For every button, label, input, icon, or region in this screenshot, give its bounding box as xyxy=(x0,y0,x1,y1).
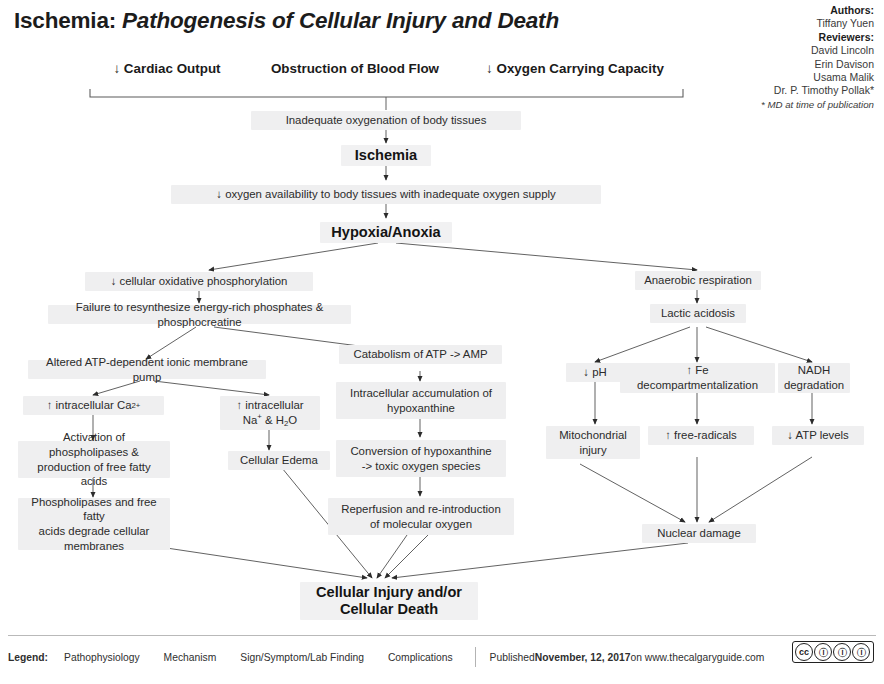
water-subscript: 2 xyxy=(284,419,288,428)
cellular-injury-line2: Cellular Death xyxy=(340,601,438,618)
node-oxidative-phosphorylation[interactable]: ↓ cellular oxidative phosphorylation xyxy=(85,272,313,291)
node-hypoxia-anoxia[interactable]: Hypoxia/Anoxia xyxy=(320,222,452,243)
publication-note: * MD at time of publication xyxy=(674,98,874,111)
cellular-injury-line1: Cellular Injury and/or xyxy=(316,584,462,601)
footer-bar: Legend: Pathophysiology Mechanism Sign/S… xyxy=(8,642,876,672)
hypoxanthine-accumulation-line1: Intracellular accumulation of xyxy=(350,386,492,401)
node-oxygen-carrying-capacity[interactable]: ↓ Oxygen Carrying Capacity xyxy=(466,58,684,80)
reperfusion-line1: Reperfusion and re-introduction xyxy=(341,502,501,517)
intracellular-sodium-line1: ↑ intracellular xyxy=(236,398,303,413)
node-oxygen-availability[interactable]: ↓ oxygen availability to body tissues wi… xyxy=(171,185,601,204)
fe-decomp-line2: decompartmentalization xyxy=(637,378,758,393)
node-ischemia[interactable]: Ischemia xyxy=(341,145,431,166)
title-subtitle-text: Pathogenesis of Cellular Injury and Deat… xyxy=(122,8,559,33)
reviewer-name: Dr. P. Timothy Pollak* xyxy=(674,84,874,97)
node-anaerobic-respiration[interactable]: Anaerobic respiration xyxy=(635,271,761,290)
legend-item-pathophysiology: Pathophysiology xyxy=(60,650,144,665)
reviewer-name: Usama Malik xyxy=(674,71,874,84)
author-name: Tiffany Yuen xyxy=(674,17,874,30)
cc-nc-icon: ⓘ xyxy=(833,643,851,661)
node-intracellular-sodium-water[interactable]: ↑ intracellular Na+ & H2O xyxy=(220,396,320,430)
legend: Legend: Pathophysiology Mechanism Sign/S… xyxy=(8,650,473,665)
publication-info: Published November, 12, 2017 on www.thec… xyxy=(490,652,765,663)
node-mitochondrial-injury[interactable]: Mitochondrial injury xyxy=(546,426,640,459)
nadh-line1: NADH xyxy=(798,363,830,378)
hypoxanthine-conversion-line2: -> toxic oxygen species xyxy=(362,459,481,474)
page-title: Ischemia: Pathogenesis of Cellular Injur… xyxy=(14,8,654,42)
reviewer-name: David Lincoln xyxy=(674,44,874,57)
published-date: November, 12, 2017 xyxy=(535,652,631,663)
node-failure-resynthesize[interactable]: Failure to resynthesize energy-rich phos… xyxy=(48,305,351,324)
nadh-line2: degradation xyxy=(784,378,844,393)
node-nadh-degradation[interactable]: NADH degradation xyxy=(778,363,850,393)
footer-divider xyxy=(8,635,876,636)
node-cellular-edema[interactable]: Cellular Edema xyxy=(228,451,330,470)
published-prefix: Published xyxy=(490,652,535,663)
phospholipase-activation-line1: Activation of phospholipases & xyxy=(24,430,164,459)
creative-commons-license[interactable]: cc ⓘ ⓘ ⓘ xyxy=(792,641,874,663)
mitochondrial-injury-line2: injury xyxy=(579,443,606,458)
cc-logo-icon: cc xyxy=(795,643,813,661)
node-intracellular-calcium[interactable]: ↑ intracellular Ca2+ xyxy=(23,396,164,415)
title-main-text: Ischemia: xyxy=(14,8,122,33)
node-lactic-acidosis[interactable]: Lactic acidosis xyxy=(650,304,746,323)
water-oxygen: O xyxy=(288,414,297,426)
reviewers-label: Reviewers: xyxy=(674,31,874,44)
diagram-page: Ischemia: Pathogenesis of Cellular Injur… xyxy=(0,0,884,684)
node-altered-atp-pump[interactable]: Altered ATP-dependent ionic membrane pum… xyxy=(28,360,266,379)
phospholipase-activation-line2: production of free fatty acids xyxy=(24,460,164,489)
node-cellular-injury-death[interactable]: Cellular Injury and/or Cellular Death xyxy=(300,582,478,620)
node-cardiac-output[interactable]: ↓ Cardiac Output xyxy=(92,58,242,80)
node-catabolism-atp-amp[interactable]: Catabolism of ATP -> AMP xyxy=(339,345,502,364)
cc-badge-group: cc ⓘ ⓘ ⓘ xyxy=(792,641,874,663)
reviewer-name: Erin Davison xyxy=(674,58,874,71)
credits-block: Authors: Tiffany Yuen Reviewers: David L… xyxy=(674,4,874,111)
node-atp-levels[interactable]: ↓ ATP levels xyxy=(772,426,864,445)
water-conjunction: & H xyxy=(262,414,284,426)
node-hypoxanthine-accumulation[interactable]: Intracellular accumulation of hypoxanthi… xyxy=(336,382,506,419)
node-phospholipase-activation[interactable]: Activation of phospholipases & productio… xyxy=(18,441,170,478)
intracellular-calcium-label: ↑ intracellular Ca xyxy=(47,398,132,413)
sodium-symbol: Na xyxy=(243,414,258,426)
mitochondrial-injury-line1: Mitochondrial xyxy=(559,428,627,443)
reperfusion-line2: of molecular oxygen xyxy=(370,517,472,532)
node-free-radicals[interactable]: ↑ free-radicals xyxy=(648,426,754,445)
degrade-membranes-line1: Phospholipases and free fatty xyxy=(24,495,164,524)
legend-item-mechanism: Mechanism xyxy=(160,650,221,665)
published-suffix: on www.thecalgaryguide.com xyxy=(630,652,764,663)
legend-label: Legend: xyxy=(8,652,48,663)
node-degrade-membranes[interactable]: Phospholipases and free fatty acids degr… xyxy=(18,498,170,550)
footer-separator xyxy=(475,647,476,667)
node-nuclear-damage[interactable]: Nuclear damage xyxy=(642,524,756,543)
node-inadequate-oxygenation[interactable]: Inadequate oxygenation of body tissues xyxy=(251,111,521,130)
cc-by-icon: ⓘ xyxy=(814,643,832,661)
legend-item-complications: Complications xyxy=(384,650,457,665)
intracellular-sodium-line2: Na+ & H2O xyxy=(243,413,297,428)
node-reperfusion[interactable]: Reperfusion and re-introduction of molec… xyxy=(328,498,514,535)
node-hypoxanthine-conversion[interactable]: Conversion of hypoxanthine -> toxic oxyg… xyxy=(336,440,506,477)
node-obstruction-blood-flow[interactable]: Obstruction of Blood Flow xyxy=(250,58,460,80)
node-low-ph[interactable]: ↓ pH xyxy=(566,363,624,382)
fe-decomp-line1: ↑ Fe xyxy=(686,363,708,378)
node-fe-decompartmentalization[interactable]: ↑ Fe decompartmentalization xyxy=(620,363,775,393)
authors-label: Authors: xyxy=(674,4,874,17)
hypoxanthine-accumulation-line2: hypoxanthine xyxy=(387,401,455,416)
degrade-membranes-line2: acids degrade cellular xyxy=(39,524,150,539)
cc-sa-icon: ⓘ xyxy=(852,643,870,661)
legend-item-sign-symptom-lab-finding: Sign/Symptom/Lab Finding xyxy=(236,650,368,665)
hypoxanthine-conversion-line1: Conversion of hypoxanthine xyxy=(350,444,491,459)
degrade-membranes-line3: membranes xyxy=(64,539,124,554)
